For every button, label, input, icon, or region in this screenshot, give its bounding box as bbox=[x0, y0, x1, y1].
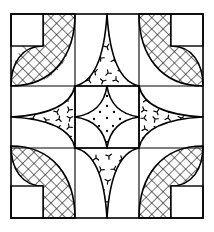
center-dot bbox=[98, 125, 100, 127]
quilt-block-drawing bbox=[0, 0, 214, 232]
white-corner-square-top-left bbox=[11, 14, 43, 46]
center-dot bbox=[99, 111, 101, 113]
center-dot bbox=[119, 118, 121, 120]
center-dot bbox=[106, 130, 108, 132]
center-dot bbox=[113, 111, 115, 113]
center-dot bbox=[112, 125, 114, 127]
figure-root: Black and white line drawing of a symmet… bbox=[0, 0, 214, 232]
center-dot bbox=[106, 141, 108, 143]
center-dot bbox=[106, 95, 108, 97]
center-dot bbox=[106, 105, 108, 107]
center-dot bbox=[93, 118, 95, 120]
center-dot bbox=[106, 117, 108, 119]
